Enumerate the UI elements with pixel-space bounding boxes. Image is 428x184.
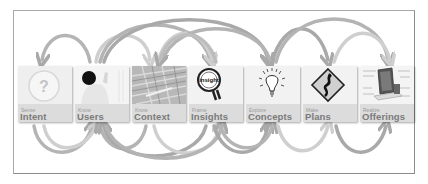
svg-text:?: ? bbox=[39, 78, 49, 95]
arrow-intent-to-users-2 bbox=[44, 126, 96, 148]
person-photo-icon bbox=[75, 66, 129, 104]
step-card-offerings[interactable]: Realize Offerings bbox=[360, 66, 414, 122]
arrow-users-to-intent bbox=[42, 35, 90, 62]
magnifying-glass-insight-icon: insight bbox=[189, 66, 243, 104]
city-aerial-photo-icon bbox=[132, 66, 186, 104]
step-card-users[interactable]: Know Users bbox=[75, 66, 129, 122]
step-label: Context bbox=[134, 112, 170, 121]
step-label: Intent bbox=[20, 112, 46, 121]
arrow-plans-to-offerings-bottom bbox=[336, 126, 386, 152]
step-label: Users bbox=[77, 112, 104, 121]
arrow-concepts-to-plans bbox=[272, 29, 328, 62]
step-label: Concepts bbox=[248, 112, 292, 121]
arrow-users-to-concepts bbox=[104, 20, 268, 62]
arrow-plans-to-offerings bbox=[334, 33, 390, 62]
step-label: Offerings bbox=[362, 112, 405, 121]
device-diagram-icon bbox=[360, 66, 414, 104]
step-card-intent[interactable]: ? Sense Intent bbox=[18, 66, 72, 122]
step-card-context[interactable]: Know Context bbox=[132, 66, 186, 122]
step-card-insights[interactable]: insight Frame Insights bbox=[189, 66, 243, 122]
step-label: Plans bbox=[305, 112, 331, 121]
arrow-concepts-to-offerings bbox=[276, 19, 388, 62]
step-card-plans[interactable]: Make Plans bbox=[303, 66, 357, 122]
winding-road-sign-icon bbox=[303, 66, 357, 104]
svg-text:insight: insight bbox=[199, 77, 219, 83]
light-bulb-icon bbox=[246, 66, 300, 104]
step-label: Insights bbox=[191, 112, 228, 121]
step-card-concepts[interactable]: Explore Concepts bbox=[246, 66, 300, 122]
arrow-concepts-to-plans-bottom bbox=[278, 126, 328, 151]
question-mark-icon: ? bbox=[18, 66, 72, 104]
